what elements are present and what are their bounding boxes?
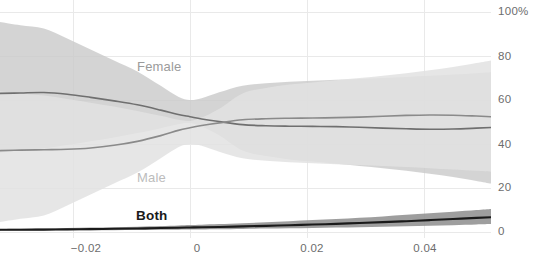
x-axis-tick-0: 0: [194, 242, 201, 254]
x-axis-tick-0p02: 0.02: [300, 242, 324, 254]
x-axis-tick-0p04: 0.04: [413, 242, 437, 254]
chart-container: Female Male Both 100%806040200 −0.0200.0…: [0, 0, 538, 258]
series-label-male: Male: [137, 170, 166, 185]
y-axis-tick-20: 20: [498, 181, 511, 193]
confidence-bands: [0, 22, 491, 231]
y-axis-tick-0: 0: [498, 225, 505, 237]
y-axis-tick-60: 60: [498, 93, 511, 105]
plot-area: [0, 0, 491, 238]
y-axis-tick-100: 100%: [498, 5, 529, 17]
y-axis: 100%806040200: [498, 0, 538, 238]
x-axis: −0.0200.020.04: [0, 238, 491, 258]
y-axis-tick-40: 40: [498, 138, 511, 150]
series-label-both: Both: [136, 208, 168, 223]
x-axis-tick-neg0p02: −0.02: [71, 242, 102, 254]
plot-svg: [0, 0, 491, 238]
series-label-female: Female: [137, 59, 182, 74]
y-axis-tick-80: 80: [498, 50, 511, 62]
